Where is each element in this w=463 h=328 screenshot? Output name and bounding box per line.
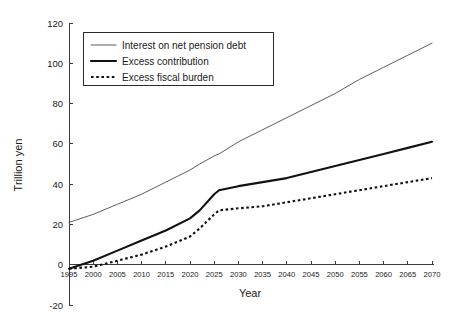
x-tick-label: 2000 [85, 270, 102, 279]
x-tick-label: 2045 [303, 270, 320, 279]
chart-legend: Interest on net pension debtExcess contr… [83, 32, 273, 85]
x-tick-label: 2030 [230, 270, 247, 279]
x-tick-label: 2005 [109, 270, 126, 279]
x-tick-label: 2035 [254, 270, 271, 279]
x-axis-title: Year [239, 287, 262, 299]
legend-entry-label: Interest on net pension debt [122, 40, 246, 51]
y-axis-title: Trillion yen [12, 139, 24, 192]
x-tick-label: 2055 [351, 270, 368, 279]
x-tick-label: 2025 [206, 270, 223, 279]
x-tick-label: 2065 [399, 270, 416, 279]
x-tick-label: 2050 [327, 270, 344, 279]
legend-entry-label: Excess contribution [122, 56, 209, 67]
chart-figure: 120100806040200-20 199520002005201020152… [0, 0, 463, 328]
x-tick-label: 2020 [182, 270, 199, 279]
y-tick-label: 120 [47, 18, 63, 29]
x-tick-label: 2060 [375, 270, 392, 279]
series-line-thick-solid [69, 142, 432, 269]
y-tick-label: 80 [52, 98, 63, 109]
y-tick-label: 60 [52, 138, 63, 149]
x-tick-label: 2040 [278, 270, 295, 279]
y-tick-label: 20 [52, 219, 63, 230]
x-tick-label: 2010 [133, 270, 150, 279]
line-chart: 120100806040200-20 199520002005201020152… [0, 0, 463, 328]
y-tick-label: -20 [49, 300, 63, 311]
y-tick-label: 40 [52, 179, 63, 190]
y-tick-label: 0 [58, 259, 63, 270]
x-axis: 1995200020052010201520202025203020352040… [61, 261, 441, 279]
x-tick-label: 2015 [157, 270, 174, 279]
series-line-dotted [69, 178, 432, 269]
x-tick-label: 2070 [424, 270, 441, 279]
x-tick-label: 1995 [61, 270, 78, 279]
legend-entry-label: Excess fiscal burden [122, 72, 214, 83]
y-tick-label: 100 [47, 58, 63, 69]
y-axis: 120100806040200-20 [47, 18, 73, 311]
